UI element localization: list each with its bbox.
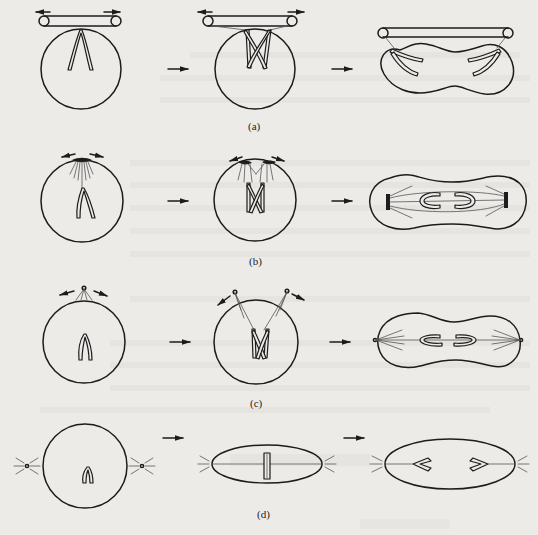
aster-right — [129, 458, 155, 474]
nucleus — [43, 424, 127, 508]
aster-left — [14, 458, 40, 474]
chromosome — [77, 188, 95, 218]
right-arrow-icon — [90, 154, 103, 157]
chromosome — [413, 458, 431, 471]
panel-c-stage-2 — [214, 289, 304, 384]
panel-c-stage-3 — [373, 313, 522, 367]
extranuclear-spindle-bar — [36, 12, 121, 26]
panel-b-stage-1 — [41, 154, 123, 242]
spindle-fibres — [390, 186, 504, 218]
panel-d-stage-2 — [198, 445, 336, 483]
panel-label-c: (c) — [250, 397, 263, 410]
panel-label-d: (d) — [257, 508, 270, 521]
left-arrow-icon — [62, 154, 75, 157]
crossed-chromosomes — [244, 30, 271, 69]
polar-cap — [72, 158, 92, 163]
aster — [76, 289, 92, 300]
panel-a-stage-1 — [36, 12, 121, 109]
left-arrow-icon — [60, 291, 74, 295]
panel-a: (a) — [36, 12, 513, 133]
panel-a-stage-2 — [198, 12, 304, 109]
spindle-fibres — [238, 164, 273, 182]
panel-c: (c) — [43, 286, 523, 410]
panel-d-stage-3 — [370, 439, 529, 489]
panel-label-a: (a) — [248, 120, 261, 133]
panel-d-stage-1 — [14, 424, 155, 508]
chromosome — [83, 467, 93, 483]
right-arrow-icon — [94, 291, 107, 296]
chromosome — [79, 334, 92, 360]
crossed-chromosomes — [252, 329, 269, 359]
asters-and-spindle — [376, 330, 520, 350]
panel-a-stage-3 — [378, 28, 513, 94]
spindle-fibres — [70, 162, 93, 188]
polar-cap-right — [504, 192, 508, 208]
nucleus — [41, 29, 121, 109]
chromosome — [470, 458, 488, 471]
mitosis-diagram: (a) — [0, 0, 538, 535]
panel-c-stage-1 — [43, 286, 125, 383]
aster-left — [370, 456, 382, 472]
panel-d: (d) — [14, 424, 529, 521]
aster-left — [198, 456, 209, 472]
chromosome — [68, 30, 93, 70]
panel-label-b: (b) — [249, 255, 262, 268]
aster-right — [518, 456, 529, 472]
polar-cap-left — [386, 194, 390, 210]
